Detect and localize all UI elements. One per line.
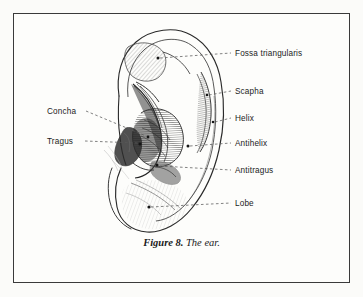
label-antihelix: Antihelix xyxy=(235,140,267,148)
figure-caption: Figure 8. The ear. xyxy=(0,238,363,249)
label-antitragus: Antitragus xyxy=(235,167,273,175)
lobe-shading xyxy=(118,176,194,234)
dot-antihelix xyxy=(187,145,190,148)
dot-scapha xyxy=(206,94,209,97)
leader-scapha xyxy=(209,91,231,95)
ear-outline xyxy=(104,30,223,234)
caption-number: Figure 8. xyxy=(143,237,183,248)
label-lobe: Lobe xyxy=(235,200,254,208)
label-concha: Concha xyxy=(47,108,76,116)
dot-antitragus xyxy=(156,164,159,167)
ear-diagram xyxy=(0,0,363,297)
label-helix: Helix xyxy=(235,115,254,123)
caption-title: The ear. xyxy=(186,237,220,248)
dot-tragus xyxy=(138,142,141,145)
dot-concha xyxy=(147,136,150,139)
label-scapha: Scapha xyxy=(235,88,264,96)
dot-lobe xyxy=(147,205,150,208)
dot-fossa-triangularis xyxy=(157,57,160,60)
leader-fossa-triangularis xyxy=(160,53,231,58)
label-fossa-triangularis: Fossa triangularis xyxy=(235,50,302,58)
dot-helix xyxy=(212,121,215,124)
figure-plate: Fossa triangularis Scapha Helix Antiheli… xyxy=(0,0,363,297)
fossa-triangularis-hatching xyxy=(118,36,172,88)
label-tragus: Tragus xyxy=(47,138,73,146)
leader-antihelix xyxy=(190,143,231,146)
